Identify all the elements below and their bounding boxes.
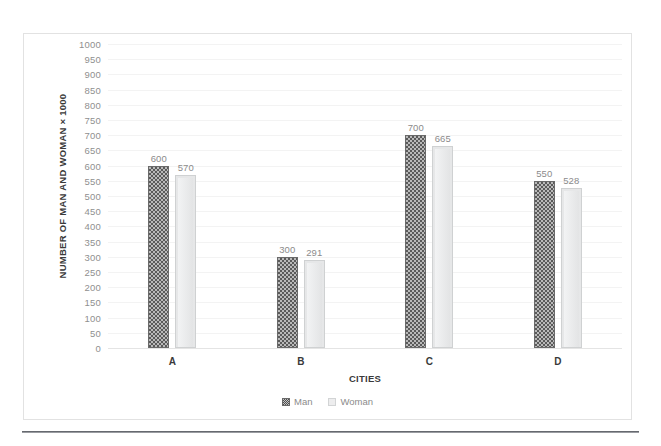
bar-man[interactable]: 700 xyxy=(405,135,426,348)
bar-value-label: 700 xyxy=(408,122,424,133)
bar-group: 550528 xyxy=(534,44,582,348)
y-axis-title: NUMBER OF MAN AND WOMAN × 1000 xyxy=(54,34,70,338)
y-axis-tick-label: 350 xyxy=(85,236,101,247)
bar-value-label: 291 xyxy=(306,247,322,258)
bar-group: 600570 xyxy=(148,44,196,348)
y-axis-tick-label: 450 xyxy=(85,206,101,217)
y-axis-tick-label: 150 xyxy=(85,297,101,308)
bar-value-label: 550 xyxy=(536,168,552,179)
bar-man[interactable]: 600 xyxy=(148,166,169,348)
x-axis-title: CITIES xyxy=(108,373,622,384)
x-axis-tick-label: C xyxy=(405,356,453,367)
y-axis-tick-label: 1000 xyxy=(79,39,101,50)
bar-value-label: 665 xyxy=(435,133,451,144)
y-axis-tick-label: 100 xyxy=(85,312,101,323)
bar-group: 300291 xyxy=(277,44,325,348)
y-axis-tick-label: 550 xyxy=(85,175,101,186)
y-axis-tick-label: 950 xyxy=(85,54,101,65)
bar-woman[interactable]: 570 xyxy=(175,175,196,348)
legend-item-woman[interactable]: Woman xyxy=(328,396,373,407)
bar-value-label: 528 xyxy=(563,175,579,186)
bar-value-label: 570 xyxy=(178,162,194,173)
chart-legend: ManWoman xyxy=(24,396,631,407)
gridline xyxy=(108,348,622,349)
bar-group: 700665 xyxy=(405,44,453,348)
y-axis-tick-label: 300 xyxy=(85,251,101,262)
legend-item-man[interactable]: Man xyxy=(282,396,312,407)
y-axis-tick-label: 900 xyxy=(85,69,101,80)
y-axis-tick-label: 600 xyxy=(85,160,101,171)
bar-man[interactable]: 300 xyxy=(277,257,298,348)
x-axis-tick-label: B xyxy=(277,356,325,367)
legend-swatch-icon xyxy=(282,398,290,406)
y-axis-tick-label: 700 xyxy=(85,130,101,141)
y-axis-tick-label: 50 xyxy=(90,327,101,338)
legend-label: Man xyxy=(294,396,312,407)
y-axis-tick-label: 850 xyxy=(85,84,101,95)
legend-label: Woman xyxy=(340,396,373,407)
scanned-page: NUMBER OF MAN AND WOMAN × 1000 100095090… xyxy=(0,0,661,446)
y-axis-tick-label: 0 xyxy=(96,343,101,354)
legend-swatch-icon xyxy=(328,398,336,406)
page-bottom-rule xyxy=(22,431,639,433)
y-axis-tick-label: 250 xyxy=(85,267,101,278)
bar-woman[interactable]: 665 xyxy=(432,146,453,348)
y-axis-tick-label: 750 xyxy=(85,115,101,126)
y-axis-tick-label: 800 xyxy=(85,99,101,110)
x-axis-tick-label: A xyxy=(148,356,196,367)
y-axis-tick-label: 650 xyxy=(85,145,101,156)
y-axis-tick-label: 400 xyxy=(85,221,101,232)
x-axis-tick-label: D xyxy=(534,356,582,367)
bar-woman[interactable]: 291 xyxy=(304,260,325,348)
bar-value-label: 300 xyxy=(279,244,295,255)
chart-frame: NUMBER OF MAN AND WOMAN × 1000 100095090… xyxy=(23,33,632,420)
plot-area: 1000950900850800750700650600550500450400… xyxy=(108,44,622,348)
bar-value-label: 600 xyxy=(151,153,167,164)
bar-man[interactable]: 550 xyxy=(534,181,555,348)
bar-woman[interactable]: 528 xyxy=(561,188,582,349)
y-axis-tick-label: 500 xyxy=(85,191,101,202)
y-axis-tick-label: 200 xyxy=(85,282,101,293)
